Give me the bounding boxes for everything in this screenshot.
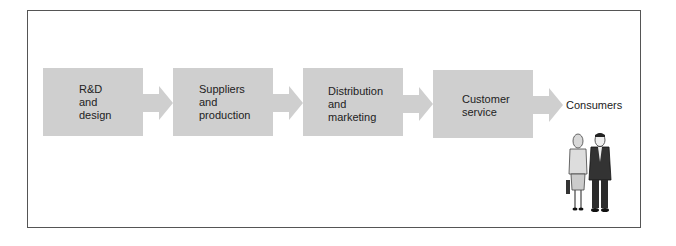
arrow-icon (143, 86, 173, 120)
step-label: Distribution and marketing (328, 85, 383, 124)
step-label: R&D and design (79, 83, 111, 122)
step-customer-service: Customer service (433, 70, 533, 138)
step-label: Customer service (462, 93, 510, 119)
arrow-icon (533, 88, 563, 122)
arrow-icon (273, 86, 303, 120)
step-label: Suppliers and production (199, 83, 250, 122)
consumers-label: Consumers (566, 99, 622, 111)
step-distribution-marketing: Distribution and marketing (303, 68, 403, 136)
arrow-icon (403, 87, 433, 121)
step-rd-design: R&D and design (43, 68, 143, 136)
step-suppliers-production: Suppliers and production (173, 68, 273, 136)
consumers-people-icon (560, 132, 620, 216)
